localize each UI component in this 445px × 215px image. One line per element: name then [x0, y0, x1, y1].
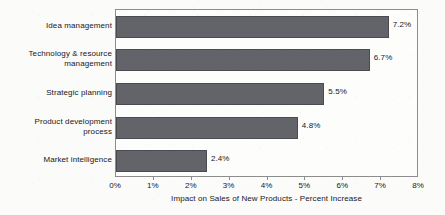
x-axis-tick-mark	[380, 177, 381, 180]
bar-value-label: 7.2%	[393, 20, 412, 29]
x-axis-tick-label: 5%	[289, 181, 319, 190]
x-axis-title: Impact on Sales of New Products - Percen…	[115, 194, 418, 203]
bar-chart: 7.2%6.7%5.5%4.8%2.4% Idea managementTech…	[0, 0, 445, 215]
bar-value-label: 5.5%	[328, 87, 347, 96]
x-axis-tick-label: 7%	[365, 181, 395, 190]
bar[interactable]	[116, 117, 298, 139]
category-label: Technology & resource management	[0, 49, 112, 69]
bar[interactable]	[116, 83, 324, 105]
bar-row: 4.8%	[116, 117, 419, 139]
category-label: Market intelligence	[0, 155, 112, 165]
x-axis-tick-label: 8%	[403, 181, 433, 190]
x-axis-tick-label: 3%	[214, 181, 244, 190]
bar[interactable]	[116, 150, 207, 172]
x-axis-tick-label: 6%	[327, 181, 357, 190]
bar[interactable]	[116, 16, 389, 38]
bar-value-label: 6.7%	[374, 53, 393, 62]
category-label: Idea management	[0, 21, 112, 31]
bar-row: 5.5%	[116, 83, 419, 105]
plot-area: 7.2%6.7%5.5%4.8%2.4%	[115, 9, 418, 177]
x-axis-tick-label: 1%	[138, 181, 168, 190]
bar-row: 6.7%	[116, 49, 419, 71]
bar-row: 7.2%	[116, 16, 419, 38]
x-axis-tick-mark	[191, 177, 192, 180]
x-axis-tick-mark	[304, 177, 305, 180]
x-axis-tick-label: 2%	[176, 181, 206, 190]
category-label: Strategic planning	[0, 88, 112, 98]
x-axis-tick-label: 0%	[100, 181, 130, 190]
x-axis-tick-mark	[229, 177, 230, 180]
bar-value-label: 4.8%	[302, 121, 321, 130]
x-axis-tick-label: 4%	[252, 181, 282, 190]
bar-row: 2.4%	[116, 150, 419, 172]
bar[interactable]	[116, 49, 370, 71]
x-axis-tick-mark	[342, 177, 343, 180]
bar-value-label: 2.4%	[211, 154, 230, 163]
x-axis-tick-mark	[267, 177, 268, 180]
x-axis-tick-mark	[153, 177, 154, 180]
category-label: Product development process	[0, 117, 112, 137]
